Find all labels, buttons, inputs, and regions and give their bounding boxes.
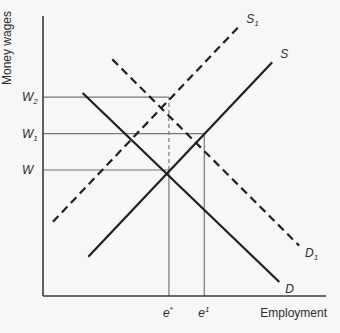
- curve-d1: [112, 59, 299, 245]
- curve-label-d: D: [285, 282, 294, 296]
- x-axis-label: Employment: [260, 306, 327, 320]
- curve-s1: [53, 27, 238, 222]
- curve-d: [83, 93, 280, 282]
- y-tick-label-w1: W1: [22, 127, 38, 143]
- curves: [53, 27, 299, 282]
- x-tick-label-e1: e1: [198, 305, 209, 320]
- curve-label-s1: S1: [246, 12, 258, 28]
- y-tick-label-w: W: [22, 163, 35, 177]
- x-tick-label-e-star: e*: [163, 305, 174, 320]
- curve-s: [88, 62, 272, 257]
- labour-market-diagram: Money wages Employment WW1W2 e*e1 DSD1S1: [0, 0, 340, 333]
- curve-label-d1: D1: [305, 246, 318, 262]
- y-tick-labels: WW1W2: [22, 90, 38, 177]
- curve-labels: DSD1S1: [246, 12, 318, 296]
- curve-label-s: S: [280, 47, 288, 61]
- y-axis-label: Money wages: [0, 11, 14, 85]
- x-tick-labels: e*e1: [163, 305, 210, 320]
- y-tick-label-w2: W2: [22, 90, 38, 106]
